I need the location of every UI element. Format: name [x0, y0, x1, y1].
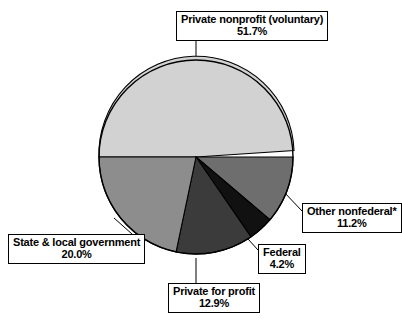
pie-slices	[99, 56, 294, 254]
callout-label-state-local: State & local government	[13, 237, 140, 249]
callout-percent-private-for-profit: 12.9%	[173, 298, 255, 310]
callout-label-private-for-profit: Private for profit	[173, 286, 255, 298]
callout-label-other-nonfederal: Other nonfederal*	[307, 206, 397, 218]
callout-percent-private-nonprofit: 51.7%	[181, 26, 323, 38]
callout-private-nonprofit: Private nonprofit (voluntary) 51.7%	[176, 11, 328, 41]
callout-private-for-profit: Private for profit 12.9%	[168, 283, 260, 313]
callout-percent-other-nonfederal: 11.2%	[307, 218, 397, 230]
callout-label-private-nonprofit: Private nonprofit (voluntary)	[181, 14, 323, 26]
callout-other-nonfederal: Other nonfederal* 11.2%	[302, 203, 402, 233]
leader-line-federal	[248, 239, 258, 250]
callout-state-local: State & local government 20.0%	[8, 234, 145, 264]
pie-slice-private-nonprofit	[99, 56, 294, 157]
callout-percent-federal: 4.2%	[263, 259, 301, 271]
callout-federal: Federal 4.2%	[258, 244, 306, 274]
callout-percent-state-local: 20.0%	[13, 249, 140, 261]
callout-label-federal: Federal	[263, 247, 301, 259]
